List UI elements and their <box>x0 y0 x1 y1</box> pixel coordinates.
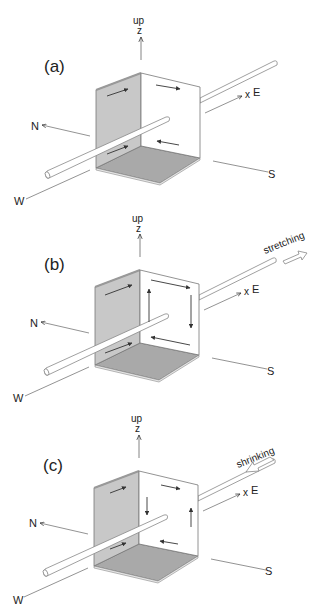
x-label: x <box>245 89 250 100</box>
north-label: N <box>30 317 38 329</box>
z-label: z <box>136 223 141 234</box>
panel-label: (b) <box>44 255 65 274</box>
z-label: z <box>137 25 142 36</box>
panel-c: shrinking (c) up z x E N S W <box>13 413 276 606</box>
panel-label: (c) <box>43 456 63 475</box>
south-label: S <box>267 365 274 377</box>
west-label: W <box>13 392 24 404</box>
east-label: E <box>252 283 259 295</box>
east-label: E <box>253 86 260 98</box>
panel-b: stretching (b) up z x E N S W <box>13 213 307 404</box>
south-label: S <box>268 168 275 180</box>
stretching-arrow-icon <box>283 251 307 264</box>
west-label: W <box>13 594 24 606</box>
west-label: W <box>14 195 25 207</box>
panel-a: (a) up z x E N S W <box>14 15 277 207</box>
figure-canvas: (a) up z x E N S W stretching (b) up z x… <box>0 0 320 608</box>
x-label: x <box>244 286 249 297</box>
north-label: N <box>29 517 37 529</box>
panel-label: (a) <box>44 57 65 76</box>
x-label: x <box>243 487 248 498</box>
z-label: z <box>135 423 140 434</box>
north-label: N <box>31 120 39 132</box>
east-label: E <box>251 484 258 496</box>
south-label: S <box>265 565 272 577</box>
